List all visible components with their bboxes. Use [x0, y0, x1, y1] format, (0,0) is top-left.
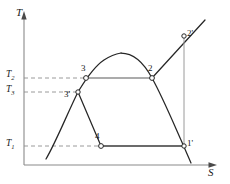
- superheat-line: [152, 20, 205, 78]
- state-point-label-1p: 1': [187, 139, 193, 148]
- tick-label-T3: T3: [6, 85, 15, 96]
- state-point-label-2p: 2': [187, 29, 193, 38]
- ts-diagram-figure: T S T2 T3 T1 3 2 3' 2' 4 1': [0, 0, 230, 184]
- tick-label-T2-sub: 2: [11, 74, 14, 81]
- state-point-marker-2: [150, 76, 155, 81]
- state-point-marker-4: [99, 144, 104, 149]
- state-point-marker-2p: [182, 34, 186, 38]
- state-point-marker-3p: [76, 90, 80, 94]
- state-point-markers-group: [76, 34, 186, 149]
- temperature-axis-label: T: [16, 7, 22, 18]
- tick-label-T1: T1: [6, 139, 15, 150]
- dashed-guides-group: [24, 78, 101, 146]
- tick-label-T3-sub: 3: [11, 89, 14, 96]
- state-point-marker-3: [84, 76, 89, 81]
- state-point-label-3: 3: [81, 64, 86, 73]
- tick-label-T1-sub: 1: [11, 143, 14, 150]
- ts-diagram-canvas: [0, 0, 230, 184]
- state-point-marker-1p: [182, 144, 186, 148]
- cycle-process-lines-group: [78, 20, 205, 146]
- state-point-label-2: 2: [148, 64, 153, 73]
- state-point-label-4: 4: [95, 132, 100, 141]
- state-point-label-3p: 3': [64, 90, 70, 99]
- tick-label-T2: T2: [6, 70, 15, 81]
- entropy-axis-label: S: [208, 167, 214, 178]
